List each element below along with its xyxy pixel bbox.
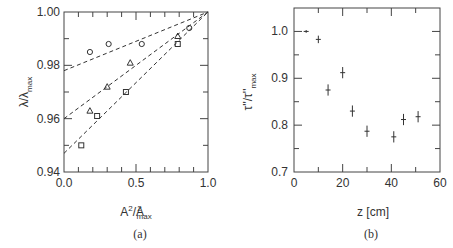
plot-frame-a [64, 12, 208, 172]
errorbar-point [365, 126, 370, 137]
errorbar-point [391, 131, 396, 142]
panel-b: 02040600.70.80.91.0 z [cm] τ''/τ''max (b… [241, 8, 447, 241]
triangle-marker [127, 60, 133, 65]
y-tick-label: 0.7 [271, 165, 288, 179]
errorbar-point [316, 36, 321, 43]
circle-marker [87, 49, 92, 54]
x-tick-label: 0.5 [128, 176, 145, 190]
errorbar-point [340, 67, 345, 78]
figure: 0.00.51.00.940.960.981.00 A2/A2max λ/λma… [0, 0, 453, 248]
errorbar-point [401, 114, 406, 125]
caption-a: (a) [133, 227, 146, 241]
x-axis-label-a: A2/A2max [120, 204, 151, 221]
y-tick-label: 0.8 [271, 118, 288, 132]
axis-ticks-a [64, 12, 208, 172]
x-tick-label: 1.0 [200, 176, 217, 190]
y-axis-label-b: τ''/τ''max [241, 73, 258, 110]
tick-labels-b: 02040600.70.80.91.0 [271, 24, 447, 190]
triangle-marker [175, 33, 181, 39]
circle-marker [139, 41, 144, 46]
triangle-marker [87, 108, 93, 114]
errorbar-point [304, 30, 309, 33]
square-marker [79, 143, 84, 148]
errorbar-point [416, 111, 421, 122]
fit-line [64, 12, 208, 153]
y-tick-label: 0.96 [37, 112, 61, 126]
x-axis-label-b: z [cm] [357, 205, 389, 219]
x-tick-label: 20 [336, 176, 350, 190]
plot-frame-b [294, 8, 440, 172]
x-tick-label: 60 [433, 176, 447, 190]
y-tick-label: 0.94 [37, 165, 61, 179]
errorbar-point [350, 105, 355, 116]
errorbar-point [326, 84, 331, 95]
y-tick-label: 1.00 [37, 5, 61, 19]
panel-a: 0.00.51.00.940.960.981.00 A2/A2max λ/λma… [17, 5, 217, 241]
caption-b: (b) [364, 227, 378, 241]
y-tick-label: 0.9 [271, 71, 288, 85]
fit-line [64, 12, 208, 71]
y-axis-label-a: λ/λmax [17, 77, 34, 107]
data-points-a [79, 25, 192, 147]
circle-marker [106, 41, 111, 46]
y-tick-label: 0.98 [37, 58, 61, 72]
x-tick-label: 40 [385, 176, 399, 190]
y-tick-label: 1.0 [271, 24, 288, 38]
square-marker [95, 114, 100, 119]
fit-lines-a [64, 12, 208, 153]
x-tick-label: 0 [291, 176, 298, 190]
data-points-b [304, 30, 421, 142]
axis-ticks-b [294, 8, 440, 172]
